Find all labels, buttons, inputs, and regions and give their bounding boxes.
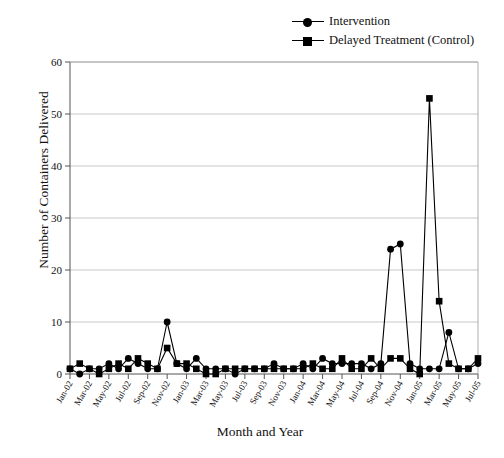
x-tick-label: Nov-03: [266, 379, 289, 408]
data-point-marker: [96, 371, 103, 378]
y-tick-label: 40: [51, 160, 63, 172]
data-point-marker: [465, 366, 472, 373]
data-point-marker: [397, 355, 404, 362]
x-tick-label: Jul-03: [230, 379, 250, 404]
data-point-marker: [387, 355, 394, 362]
data-point-marker: [348, 366, 355, 373]
data-point-marker: [319, 366, 326, 373]
data-point-marker: [426, 365, 433, 372]
data-point-marker: [125, 355, 132, 362]
x-axis-ticks: Jan-02Mar-02May-02Jul-02Sep-02Nov-02Jan-…: [54, 374, 483, 409]
data-point-marker: [76, 371, 83, 378]
series-line-intervention: [70, 244, 478, 374]
x-tick-label: Jan-02: [54, 379, 75, 405]
y-tick-label: 30: [51, 212, 63, 224]
data-point-marker: [222, 366, 229, 373]
data-point-marker: [397, 241, 404, 248]
y-tick-label: 60: [51, 56, 63, 68]
data-point-marker: [232, 366, 239, 373]
data-point-marker: [300, 366, 307, 373]
x-tick-label: May-02: [91, 379, 114, 409]
x-tick-label: Jul-04: [346, 379, 366, 404]
x-tick-label: Nov-02: [149, 379, 171, 408]
data-point-marker: [154, 366, 161, 373]
data-point-marker: [261, 366, 268, 373]
data-point-marker: [67, 366, 74, 373]
data-point-marker: [183, 360, 190, 367]
data-point-marker: [76, 360, 83, 367]
x-tick-label: May-05: [440, 379, 463, 409]
data-point-marker: [203, 371, 210, 378]
data-point-marker: [212, 371, 219, 378]
data-point-marker: [475, 355, 482, 362]
data-point-marker: [368, 355, 375, 362]
data-series-group: [67, 95, 482, 377]
data-point-marker: [106, 366, 113, 373]
data-point-marker: [125, 366, 132, 373]
data-point-marker: [251, 366, 258, 373]
data-point-marker: [242, 366, 249, 373]
series-line-delayed-treatment: [70, 98, 478, 374]
y-tick-label: 0: [57, 368, 63, 380]
data-point-marker: [164, 345, 171, 352]
gridlines: [70, 62, 478, 322]
x-tick-label: May-03: [207, 379, 230, 409]
data-point-marker: [329, 366, 336, 373]
chart-canvas: 0102030405060 Jan-02Mar-02May-02Jul-02Se…: [0, 0, 504, 458]
data-point-marker: [445, 329, 452, 336]
data-point-marker: [358, 366, 365, 373]
data-point-marker: [193, 355, 200, 362]
data-point-marker: [174, 360, 181, 367]
data-point-marker: [164, 319, 171, 326]
data-point-marker: [378, 366, 385, 373]
y-axis-ticks: 0102030405060: [51, 56, 70, 380]
y-tick-label: 10: [51, 316, 63, 328]
chart-figure: Intervention Delayed Treatment (Control)…: [0, 0, 504, 458]
data-point-marker: [280, 366, 287, 373]
data-point-marker: [416, 371, 423, 378]
data-point-marker: [319, 355, 326, 362]
data-point-marker: [271, 366, 278, 373]
data-point-marker: [446, 360, 453, 367]
data-point-marker: [193, 366, 200, 373]
data-point-marker: [387, 246, 394, 253]
data-point-marker: [436, 298, 443, 305]
data-point-marker: [310, 360, 317, 367]
data-point-marker: [86, 366, 93, 373]
x-tick-label: Jul-02: [113, 379, 133, 403]
x-tick-label: May-04: [324, 379, 347, 409]
data-point-marker: [339, 355, 346, 362]
y-tick-label: 20: [51, 264, 63, 276]
data-point-marker: [290, 366, 297, 373]
plot-area: 0102030405060 Jan-02Mar-02May-02Jul-02Se…: [0, 0, 504, 458]
data-point-marker: [368, 365, 375, 372]
data-point-marker: [135, 355, 142, 362]
data-point-marker: [115, 360, 122, 367]
data-point-marker: [436, 365, 443, 372]
y-tick-label: 50: [51, 108, 63, 120]
data-point-marker: [144, 360, 151, 367]
data-point-marker: [407, 366, 414, 373]
x-tick-label: Nov-04: [383, 379, 406, 408]
data-point-marker: [455, 366, 462, 373]
data-point-marker: [426, 95, 433, 102]
x-tick-label: Jul-05: [463, 379, 483, 404]
